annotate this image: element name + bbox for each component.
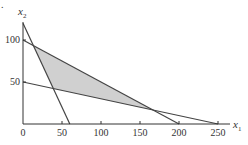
x-tick-label: 200 xyxy=(172,127,187,138)
x-tick-label: 0 xyxy=(21,127,26,138)
y-tick-label: 100 xyxy=(5,34,20,45)
x-tick-label: 250 xyxy=(211,127,226,138)
x-tick-label: 100 xyxy=(94,127,109,138)
y-tick-label: 50 xyxy=(10,76,20,87)
x-tick-label: 50 xyxy=(57,127,67,138)
x-axis-label: x1 xyxy=(232,118,242,133)
constraint-3-line xyxy=(23,82,218,124)
figure-marker: . xyxy=(1,0,4,10)
x-tick-label: 150 xyxy=(133,127,148,138)
lp-feasible-region-diagram: . 050100150200250 50100 x2 x1 xyxy=(0,0,248,145)
constraint-2-line xyxy=(23,40,179,124)
y-axis-label: x2 xyxy=(17,5,27,20)
